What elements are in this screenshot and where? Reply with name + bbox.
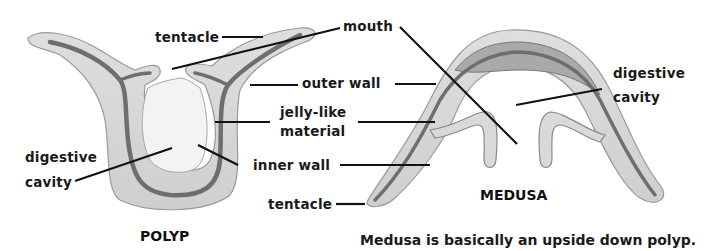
label-material: material [280,123,345,139]
caption: Medusa is basically an upside down polyp… [360,232,696,248]
label-digestive-polyp: digestive [25,149,97,165]
label-tentacle-bottom: tentacle [268,196,332,212]
label-mouth: mouth [343,18,393,34]
polyp-medusa-diagram: tentacle mouth outer wall jelly-like mat… [0,0,707,251]
label-inner-wall: inner wall [253,157,330,173]
label-cavity-medusa: cavity [613,89,660,105]
polyp-digestive-cavity [142,78,207,172]
label-cavity-polyp: cavity [25,174,72,190]
label-jelly-like: jelly-like [279,104,346,120]
medusa-illustration [367,30,664,207]
title-polyp: POLYP [140,228,189,244]
label-outer-wall: outer wall [302,75,381,91]
label-digestive-medusa: digestive [613,65,685,81]
label-tentacle-top: tentacle [155,29,219,45]
title-medusa: MEDUSA [480,187,548,203]
